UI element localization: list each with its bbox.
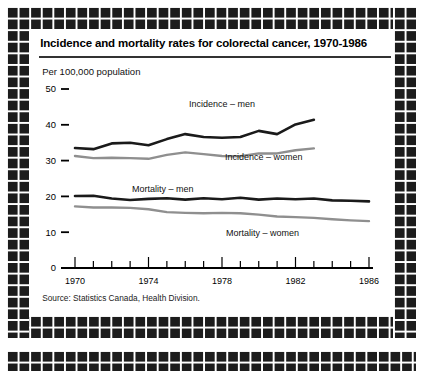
series-label-mortality-men: Mortality – men xyxy=(132,184,193,194)
decorative-frame: Incidence and mortality rates for colore… xyxy=(6,6,416,338)
series-line xyxy=(75,196,369,202)
y-tick-label: 20 xyxy=(46,191,56,202)
series-label-mortality-women: Mortality – women xyxy=(226,228,299,238)
y-tick-label: 0 xyxy=(51,263,56,274)
x-tick-label: 1986 xyxy=(359,276,379,286)
line-chart: 0102030405019701974197819821986Incidence… xyxy=(29,29,393,315)
frame-border-bottom xyxy=(6,315,416,338)
x-tick-label: 1970 xyxy=(65,276,85,286)
frame-border-right xyxy=(393,6,416,338)
chart-plot-area: 0102030405019701974197819821986Incidence… xyxy=(29,29,393,315)
frame-border-top xyxy=(6,6,416,29)
y-tick-label: 40 xyxy=(46,119,56,130)
source-note: Source: Statistics Canada, Health Divisi… xyxy=(42,293,200,303)
series-line xyxy=(75,120,314,149)
x-tick-label: 1978 xyxy=(212,276,232,286)
x-tick-label: 1982 xyxy=(286,276,306,286)
y-tick-label: 30 xyxy=(46,155,56,166)
series-label-incidence-women: Incidence – women xyxy=(225,152,302,162)
frame-border-left xyxy=(6,6,29,338)
chart-card: Incidence and mortality rates for colore… xyxy=(29,29,393,315)
series-label-incidence-men: Incidence – men xyxy=(189,99,255,109)
y-tick-label: 10 xyxy=(46,227,56,238)
y-tick-label: 50 xyxy=(46,84,56,95)
x-tick-label: 1974 xyxy=(139,276,159,286)
decorative-bottom-ribbon xyxy=(6,350,416,371)
series-line xyxy=(75,207,369,222)
